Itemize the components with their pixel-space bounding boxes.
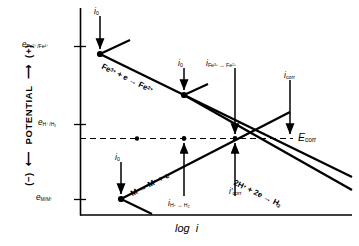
ecorr-subscript: corr	[305, 136, 316, 143]
potential-subscript-h: H⁺/H₂	[43, 121, 57, 127]
y-axis-arrow-right: ⟶	[23, 61, 34, 82]
i-h-sub-count-2: 2	[188, 205, 190, 209]
h-reduction-lines	[181, 84, 352, 190]
potential-label-h-h2: eH⁺/H₂	[38, 118, 56, 127]
i-corr-subscript: corr	[286, 74, 295, 80]
i-corr-label: icorr	[284, 70, 295, 80]
x-axis-title: log i	[175, 222, 198, 234]
i-fe-sub-charge-2: 2+	[232, 63, 236, 67]
evans-diagram-figure: (−) ⟵ POTENTIAL ⟶ (+) log i eFe³⁺/Fe²⁺ e…	[0, 0, 359, 246]
ecorr-label: Ecorr	[298, 131, 316, 143]
x-axis-title-text: log	[175, 222, 190, 234]
i-fe-sub-arrow: →	[218, 62, 226, 68]
x-axis-title-variable: i	[196, 222, 198, 234]
i-fe3-fe2-label: iFe3+ → Fe2+	[206, 58, 236, 68]
potential-subscript-m: M/M⁺	[41, 196, 54, 202]
i0-fe-subscript: 0	[96, 10, 99, 16]
i-corr-prime-subscript: corr	[232, 190, 241, 196]
potential-label-fe3-fe2: eFe³⁺/Fe²⁺	[22, 40, 49, 49]
ecorr-symbol: E	[298, 131, 305, 143]
y-axis-negative-sign: (−)	[23, 172, 34, 186]
y-axis-arrow-left: ⟵	[23, 148, 34, 169]
potential-subscript-fe: Fe³⁺/Fe²⁺	[27, 43, 50, 49]
i0-h-label: i0	[178, 58, 183, 68]
potential-label-m-mplus: eM/M⁺	[36, 193, 53, 202]
y-axis-title-group: (−) ⟵ POTENTIAL ⟶ (+)	[23, 40, 39, 190]
i0-fe-label: i0	[94, 6, 99, 16]
i-h-h2-label: iH+ → H2	[168, 198, 189, 209]
i-h-sub-arrow: →	[176, 202, 184, 208]
y-axis-title: POTENTIAL	[23, 85, 34, 144]
i0-h-subscript: 0	[180, 62, 183, 68]
i0-m-subscript: 0	[117, 156, 120, 162]
annotation-arrows	[100, 16, 290, 196]
i0-m-label: i0	[115, 152, 120, 162]
